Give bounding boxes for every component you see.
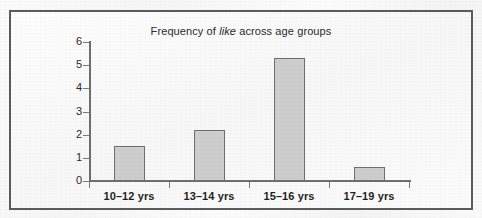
y-axis-tick-label: 6 [76,35,82,48]
y-axis-tick-mark [83,135,89,136]
plot-area: 0123456 [89,42,409,181]
y-axis-tick-mark [83,88,89,89]
x-axis-label: 10–12 yrs [89,190,169,202]
chart-title-before: Frequency of [151,25,220,37]
chart-title-emphasis: like [219,25,236,37]
x-axis-separator-tick [409,182,410,188]
y-axis-tick-label: 0 [76,174,82,187]
y-axis-tick-label: 4 [76,81,82,94]
scanned-page-background: Frequency of like across age groups 0123… [0,0,482,218]
bar [194,130,225,181]
bar [114,146,145,181]
y-axis-tick-label: 2 [76,128,82,141]
x-axis-separator-tick [329,182,330,188]
bar [274,58,305,181]
y-axis-tick-label: 3 [76,105,82,118]
y-axis-tick-mark [83,158,89,159]
y-axis-tick-mark [83,42,89,43]
chart-figure-frame: Frequency of like across age groups 0123… [9,10,473,210]
x-axis-label: 13–14 yrs [169,190,249,202]
y-axis-tick-label: 1 [76,151,82,164]
x-axis-label: 15–16 yrs [249,190,329,202]
y-axis-tick-label: 5 [76,58,82,71]
bar [354,167,385,181]
y-axis-tick-mark [83,112,89,113]
y-axis-tick-mark [83,65,89,66]
x-axis-label: 17–19 yrs [329,190,409,202]
x-axis-separator-tick [249,182,250,188]
x-axis-separator-tick [169,182,170,188]
chart-title-after: across age groups [236,25,331,37]
x-axis-separator-tick [89,182,90,188]
